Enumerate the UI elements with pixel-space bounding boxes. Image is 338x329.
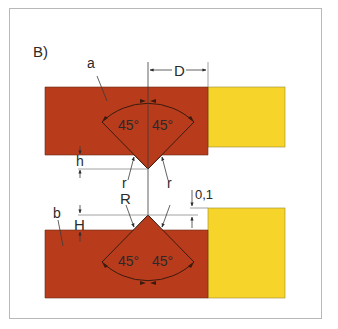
dimension-h-label: h: [76, 153, 84, 169]
panel-label: B): [33, 43, 48, 60]
radius-R-label: R: [120, 190, 131, 207]
top-angle-left: 45°: [118, 117, 139, 133]
radius-r-right: r: [167, 175, 172, 191]
offset-label: 0,1: [195, 187, 213, 202]
part-a-label: a: [87, 55, 95, 71]
bottom-angle-right: 45°: [152, 253, 173, 269]
part-b-label: b: [53, 205, 61, 221]
bottom-yellow-block: [208, 208, 285, 298]
dimension-H-label: H: [74, 216, 85, 233]
dimension-D-label: D: [174, 62, 185, 79]
top-angle-right: 45°: [152, 117, 173, 133]
top-yellow-block: [208, 87, 285, 147]
weld-joint-diagram: B) 45° 45° a D h r r: [0, 0, 338, 329]
bottom-angle-left: 45°: [118, 253, 139, 269]
radius-r-left: r: [122, 175, 127, 191]
